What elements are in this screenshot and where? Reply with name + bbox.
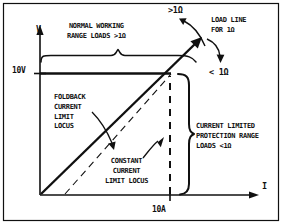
normal-working-range-label: NORMAL WORKING RANGE LOADS >1Ω — [67, 22, 126, 41]
greater-than-1ohm-label: >1Ω — [168, 6, 182, 16]
i-axis-label: I — [262, 182, 267, 192]
foldback-arrowhead — [108, 142, 115, 150]
constant-current-arrowhead — [157, 137, 164, 147]
figure-border — [4, 4, 279, 221]
lt1ohm-arrowhead — [217, 55, 225, 64]
i-axis-arrowhead — [249, 191, 259, 198]
current-limited-protection-range-label: CURRENT LIMITED PROTECTION RANGE LOADS <… — [196, 122, 259, 151]
foldback-current-limit-locus-label: FOLDBACK CURRENT LIMIT LOCUS — [54, 93, 85, 132]
y-tick-label-10v: 10V — [12, 66, 26, 76]
less-than-1ohm-label: < 1Ω — [209, 68, 228, 78]
normal-working-range-brace — [41, 50, 196, 63]
constant-current-limit-locus-label: CONSTANT CURRENT LIMIT LOCUS — [105, 157, 148, 186]
load-line-for-1ohm-label: LOAD LINE FOR 1Ω — [211, 15, 246, 35]
x-tick-label-10a: 10A — [152, 205, 166, 215]
lt1ohm-leader-arrow — [207, 39, 220, 56]
foldback-current-limit-diagram: NORMAL WORKING RANGE LOADS >1Ω >1Ω LOAD … — [0, 0, 282, 224]
current-limited-range-brace — [178, 74, 194, 195]
constant-current-leader-arrow — [143, 141, 158, 158]
v-axis-label: V — [36, 25, 41, 35]
